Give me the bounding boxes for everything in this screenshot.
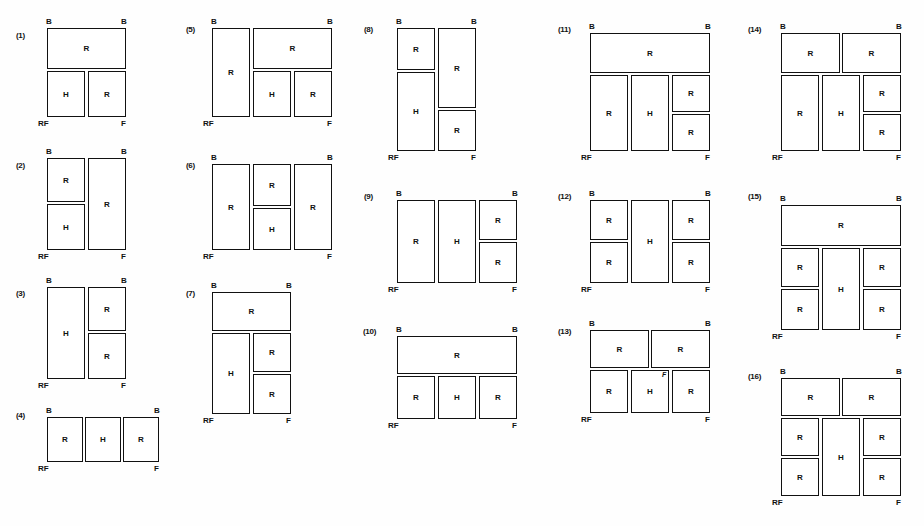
diagram-cell: R	[781, 418, 819, 456]
figure-number: (16)	[748, 372, 761, 381]
diagram-cell: H	[822, 418, 860, 496]
cell-label: R	[797, 472, 803, 481]
cell-label: H	[838, 452, 844, 461]
diagram-cell: R	[863, 458, 901, 496]
corner-label-bottom-right: F	[896, 498, 901, 507]
figure-sheet: (1)BBRFFRHR(2)BBRFFRHR(3)BBRFFHRR(4)BBRF…	[0, 0, 924, 526]
corner-label-top-left: B	[780, 367, 786, 376]
diagram-cell: R	[781, 458, 819, 496]
cell-label: R	[879, 432, 885, 441]
diagram-cell: R	[863, 418, 901, 456]
diagram-cell: R	[842, 378, 901, 416]
corner-label-top-right: B	[896, 367, 902, 376]
corner-label-bottom-left: RF	[772, 498, 783, 507]
cell-label: R	[869, 392, 875, 401]
cell-label: R	[808, 392, 814, 401]
figure-16: (16)BBRFFRRRRHRR	[0, 0, 924, 526]
diagram-cell: R	[781, 378, 840, 416]
cell-label: R	[797, 432, 803, 441]
cell-label: R	[879, 472, 885, 481]
diagram-body: RRRRHRR	[781, 378, 901, 496]
